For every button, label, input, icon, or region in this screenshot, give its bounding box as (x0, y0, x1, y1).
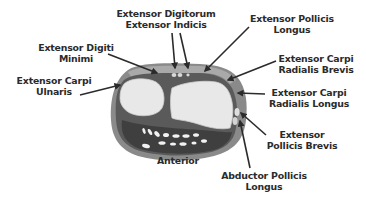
label-line-2: Longus (214, 181, 314, 192)
label-line-1: Extensor Carpi (270, 53, 362, 64)
label-line-1: Extensor (260, 129, 344, 140)
label-line-2: Radialis Brevis (270, 64, 362, 75)
ulna-bone (120, 79, 164, 116)
label-extensor-pollicis-longus: Extensor Pollicis Longus (244, 13, 340, 35)
label-line-1: Extensor Carpi (12, 75, 96, 86)
label-line-2: Extensor Indicis (114, 19, 218, 30)
label-line-2: Minimi (34, 53, 118, 64)
label-line-2: Longus (244, 24, 340, 35)
label-extensor-pollicis-brevis: Extensor Pollicis Brevis (260, 129, 344, 151)
label-line-1: Extensor Carpi (260, 87, 358, 98)
arrow-extensor-digitorum-icon (172, 33, 175, 68)
label-line-1: Anterior (148, 155, 208, 166)
forearm-cross-section-diagram: Extensor Digitorum Extensor Indicis Exte… (0, 0, 366, 206)
arrow-extensor-pollicis-longus-icon (205, 27, 249, 71)
label-extensor-digiti-minimi: Extensor Digiti Minimi (34, 42, 118, 64)
label-extensor-carpi-radialis-brevis: Extensor Carpi Radialis Brevis (270, 53, 362, 75)
label-extensor-carpi-radialis-longus: Extensor Carpi Radialis Longus (260, 87, 358, 109)
tendon-extensor-digitorum-2 (178, 73, 183, 77)
label-line-2: Ulnaris (12, 86, 96, 97)
tendon-abductor-pollicis-longus (233, 117, 238, 125)
arrow-extensor-carpi-radialis-brevis-icon (228, 61, 276, 80)
label-anterior: Anterior (148, 155, 208, 166)
tendon-extensor-digitorum-1 (172, 73, 177, 77)
label-line-1: Extensor Digitorum (114, 8, 218, 19)
label-abductor-pollicis-longus: Abductor Pollicis Longus (214, 170, 314, 192)
tendon-extensor-pollicis-brevis (235, 108, 240, 116)
label-line-1: Extensor Digiti (34, 42, 118, 53)
arrow-abductor-pollicis-longus-icon (240, 121, 250, 168)
label-line-1: Extensor Pollicis (244, 13, 340, 24)
label-extensor-carpi-ulnaris: Extensor Carpi Ulnaris (12, 75, 96, 97)
tendon-extensor-indicis (186, 74, 189, 77)
label-line-2: Radialis Longus (260, 98, 358, 109)
label-line-2: Pollicis Brevis (260, 140, 344, 151)
label-line-1: Abductor Pollicis (214, 170, 314, 181)
arrow-extensor-indicis-icon (180, 33, 188, 68)
label-extensor-digitorum-indicis: Extensor Digitorum Extensor Indicis (114, 8, 218, 30)
